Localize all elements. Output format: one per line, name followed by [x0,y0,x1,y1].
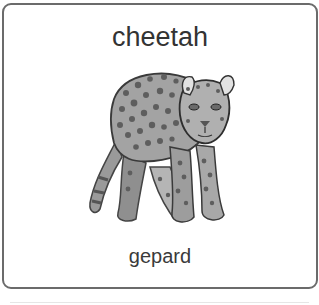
next-card-edge [10,302,309,303]
card-title: cheetah [4,21,316,53]
card-translation: gepard [4,243,316,269]
flashcard[interactable]: cheetah [2,3,318,289]
cheetah-icon [84,63,236,227]
